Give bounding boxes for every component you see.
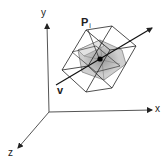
x-axis: [49, 110, 152, 112]
x-axis-label: x: [155, 104, 160, 114]
point-label-subscript: i: [89, 22, 91, 29]
vector-label: v: [57, 85, 63, 96]
point-pi: [97, 56, 102, 61]
point-label: Pi: [81, 17, 91, 28]
y-axis: [47, 24, 49, 112]
z-axis-label: z: [8, 148, 13, 158]
z-axis: [18, 112, 49, 148]
y-axis-label: y: [41, 8, 46, 18]
point-label-main: P: [81, 16, 88, 28]
